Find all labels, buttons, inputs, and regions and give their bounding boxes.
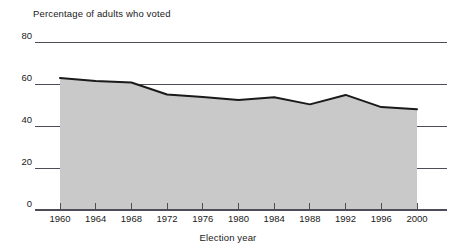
y-tick-label: 40	[10, 114, 32, 125]
x-axis-title: Election year	[0, 232, 456, 243]
area-polygon	[60, 78, 417, 210]
x-tick-label: 1960	[43, 213, 77, 224]
x-tick-label: 2000	[400, 213, 434, 224]
x-tick-label: 1988	[293, 213, 327, 224]
x-tick-label: 1996	[364, 213, 398, 224]
y-tick-label: 60	[10, 72, 32, 83]
x-tick-label: 1980	[222, 213, 256, 224]
x-tick-label: 1976	[186, 213, 220, 224]
x-tick-label: 1972	[150, 213, 184, 224]
x-tick-label: 1984	[257, 213, 291, 224]
voter-turnout-chart: Percentage of adults who voted 020406080…	[0, 0, 456, 252]
area-fill	[60, 78, 417, 210]
x-tick-label: 1992	[329, 213, 363, 224]
x-tick-label: 1964	[79, 213, 113, 224]
y-tick-label: 20	[10, 156, 32, 167]
x-tick-label: 1968	[114, 213, 148, 224]
y-tick-label: 0	[10, 198, 32, 209]
y-tick-label: 80	[10, 30, 32, 41]
